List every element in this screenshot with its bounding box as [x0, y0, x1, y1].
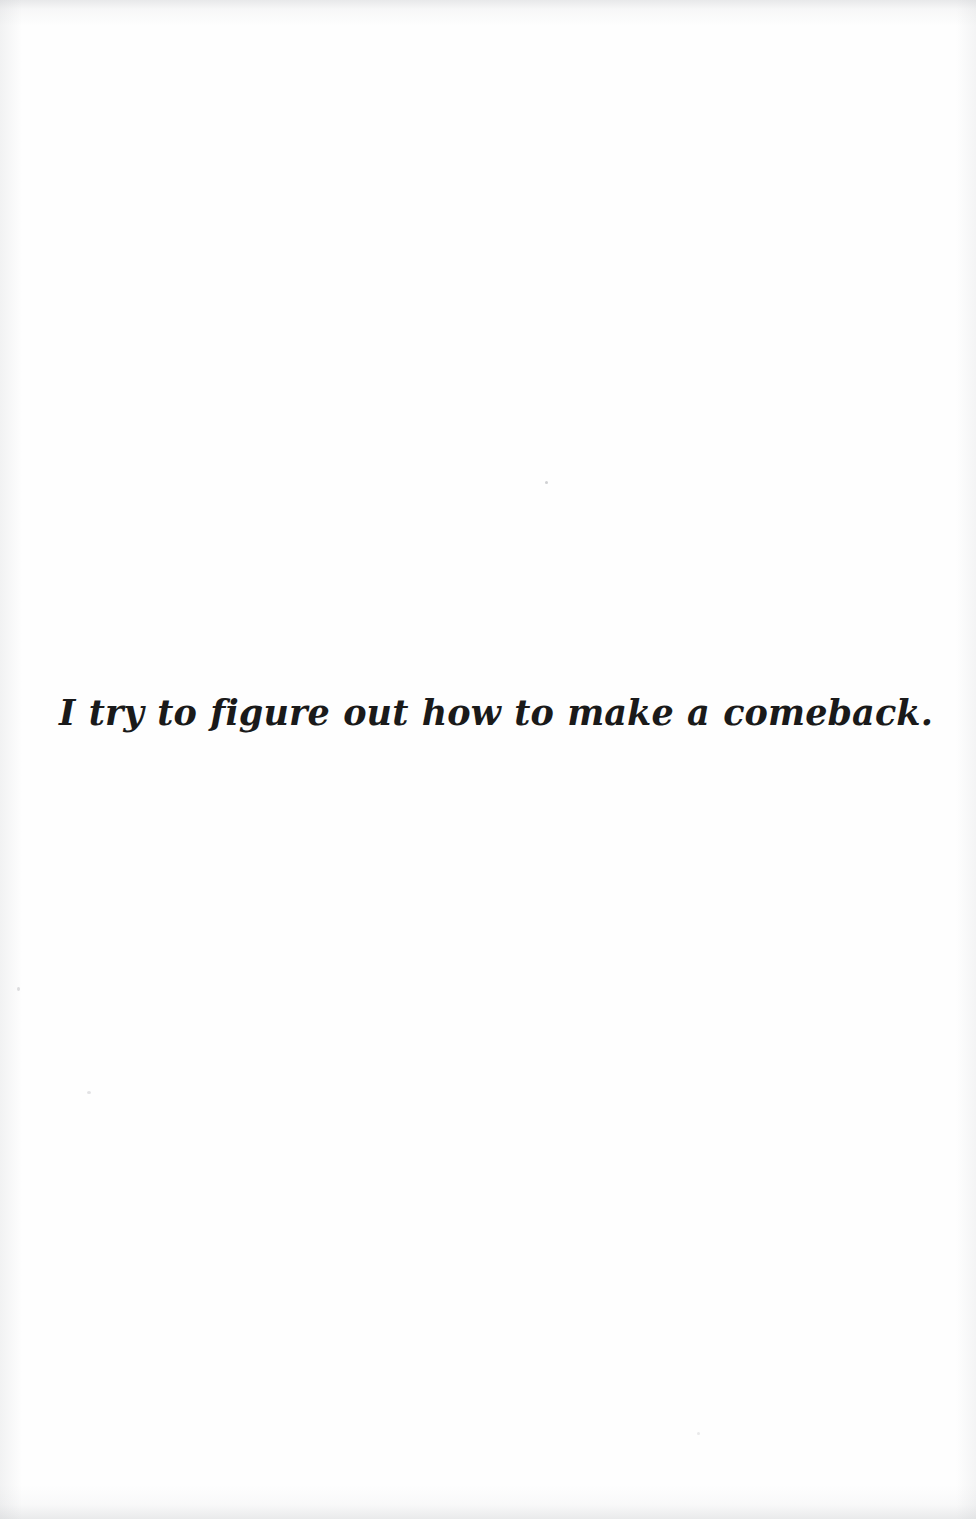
scan-edge-top: [0, 0, 976, 26]
body-text-block: I try to figure out how to make a comeba…: [0, 690, 976, 736]
scanned-page: I try to figure out how to make a comeba…: [0, 0, 976, 1519]
scan-edge-left: [0, 0, 22, 1519]
dust-speck: [545, 481, 548, 484]
dust-speck: [87, 1091, 91, 1094]
dust-speck: [17, 987, 20, 991]
scan-edge-bottom: [0, 1485, 976, 1519]
scan-edge-right: [956, 0, 976, 1519]
body-text-line: I try to figure out how to make a comeba…: [59, 690, 915, 736]
dust-speck: [697, 1432, 700, 1435]
